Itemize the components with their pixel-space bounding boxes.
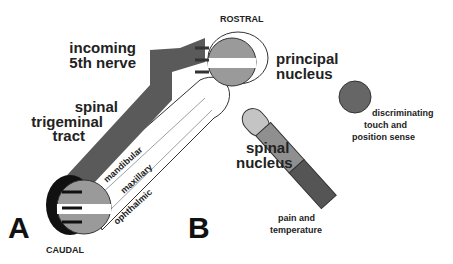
principal-nucleus-b (339, 81, 371, 113)
label-position-sense: position sense (352, 132, 415, 142)
label-tract-3: tract (52, 127, 85, 144)
label-spinal-nucleus-2: nucleus (236, 154, 293, 171)
label-5th-nerve: 5th nerve (69, 54, 136, 71)
label-rostral: ROSTRAL (220, 14, 264, 24)
label-temperature: temperature (270, 225, 322, 235)
panel-letter-b: B (188, 211, 210, 244)
label-pain: pain and (278, 213, 315, 223)
label-discriminating: discriminating (372, 108, 434, 118)
label-touch: touch and (364, 120, 407, 130)
panel-letter-a: A (8, 211, 30, 244)
label-principal-nucleus: nucleus (276, 65, 333, 82)
trigeminal-diagram: incoming 5th nerve spinal trigeminal tra… (0, 0, 453, 264)
label-caudal: CAUDAL (46, 245, 84, 255)
